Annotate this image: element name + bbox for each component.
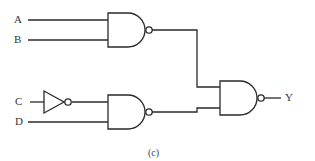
nand-bubble-top (146, 27, 152, 33)
logic-circuit (0, 0, 315, 161)
wire-nand1-out (152, 30, 220, 87)
nand-gate-bottom (108, 95, 152, 129)
nand-bubble-final (258, 95, 264, 101)
not-gate (44, 91, 71, 113)
wire-nand2-out (152, 108, 220, 112)
output-label-y: Y (285, 92, 293, 103)
figure-caption: (c) (148, 147, 159, 158)
not-bubble (65, 99, 71, 105)
input-label-b: B (14, 34, 21, 45)
input-label-c: C (15, 96, 22, 107)
input-label-a: A (14, 14, 22, 25)
input-label-d: D (15, 116, 23, 127)
nand-bubble-bottom (146, 109, 152, 115)
nand-gate-final (220, 81, 264, 115)
nand-gate-top (108, 13, 152, 47)
